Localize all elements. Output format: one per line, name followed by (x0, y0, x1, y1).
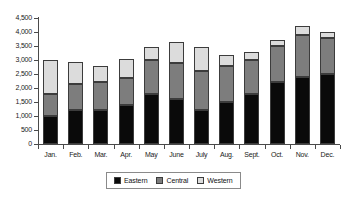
plot-area (38, 18, 338, 144)
bar-group (320, 18, 335, 144)
y-axis-tick-label: 3,500 (0, 42, 32, 49)
bar-group (68, 18, 83, 144)
y-axis-tick-label: 4,500 (0, 14, 32, 21)
bar-segment-eastern (295, 77, 310, 144)
x-axis-tick (290, 145, 291, 149)
bar-group (93, 18, 108, 144)
bar-segment-central (270, 46, 285, 82)
y-axis-tick-label: 3,000 (0, 56, 32, 63)
legend-item: Central (156, 177, 188, 185)
chart-legend: EasternCentralWestern (106, 172, 241, 189)
bar-segment-western (43, 60, 58, 94)
y-axis-label-wrap: 500 (0, 126, 32, 133)
y-axis-label-wrap: 1,500 (0, 98, 32, 105)
y-axis-label-wrap: 1,000 (0, 112, 32, 119)
x-axis-tick (114, 145, 115, 149)
bar-segment-western (270, 40, 285, 46)
bar-group (244, 18, 259, 144)
bar-segment-eastern (68, 110, 83, 144)
y-axis-tick-label: 0 (0, 140, 32, 147)
bar-segment-eastern (43, 116, 58, 144)
bar-group (295, 18, 310, 144)
bar-segment-central (194, 71, 209, 110)
x-axis-tick (164, 145, 165, 149)
bar-segment-eastern (320, 74, 335, 144)
x-axis-tick (38, 145, 39, 149)
bar-segment-eastern (144, 94, 159, 144)
y-axis-tick-label: 2,500 (0, 70, 32, 77)
bar-segment-central (43, 94, 58, 116)
bar-segment-western (295, 26, 310, 34)
bar-segment-eastern (93, 110, 108, 144)
bar-group (144, 18, 159, 144)
bar-group (219, 18, 234, 144)
legend-swatch-western (197, 177, 204, 184)
y-axis-tick-label: 1,000 (0, 112, 32, 119)
bar-segment-western (169, 42, 184, 63)
y-axis-tick-label: 4,000 (0, 28, 32, 35)
x-axis-tick (315, 145, 316, 149)
bar-group (270, 18, 285, 144)
x-axis-tick-label: Dec. (311, 151, 343, 159)
x-axis-tick (214, 145, 215, 149)
y-axis-tick-label: 500 (0, 126, 32, 133)
bar-segment-central (169, 63, 184, 99)
x-axis-tick (189, 145, 190, 149)
bar-segment-central (219, 66, 234, 102)
bar-segment-western (119, 59, 134, 78)
x-axis-tick (139, 145, 140, 149)
bar-segment-western (144, 47, 159, 60)
bar-segment-eastern (244, 94, 259, 144)
legend-item: Eastern (114, 177, 147, 185)
bar-group (169, 18, 184, 144)
legend-swatch-central (156, 177, 163, 184)
x-axis-tick (88, 145, 89, 149)
bar-segment-central (320, 38, 335, 74)
y-axis-label-wrap: 4,500 (0, 14, 32, 21)
bar-segment-western (194, 47, 209, 71)
bar-segment-eastern (219, 102, 234, 144)
bar-segment-eastern (119, 105, 134, 144)
bar-segment-eastern (194, 110, 209, 144)
legend-label: Central (166, 177, 188, 185)
stacked-bar-chart: 4,5004,0003,5003,0002,5002,0001,5001,000… (0, 0, 347, 202)
bar-segment-central (144, 60, 159, 94)
bar-segment-central (93, 82, 108, 110)
y-axis-label-wrap: 0 (0, 140, 32, 147)
bar-segment-western (219, 55, 234, 66)
bar-segment-central (119, 78, 134, 105)
bar-segment-central (68, 84, 83, 111)
y-axis-label-wrap: 4,000 (0, 28, 32, 35)
legend-label: Eastern (124, 177, 147, 185)
y-axis-label-wrap: 2,000 (0, 84, 32, 91)
bar-segment-central (295, 35, 310, 77)
bar-group (119, 18, 134, 144)
y-axis-label-wrap: 2,500 (0, 70, 32, 77)
bar-segment-eastern (169, 99, 184, 144)
bar-segment-eastern (270, 82, 285, 144)
legend-label: Western (207, 177, 232, 185)
y-axis-label-wrap: 3,000 (0, 56, 32, 63)
legend-swatch-eastern (114, 177, 121, 184)
bar-group (43, 18, 58, 144)
bar-group (194, 18, 209, 144)
y-axis-tick-label: 2,000 (0, 84, 32, 91)
x-axis-tick (340, 145, 341, 149)
bar-segment-western (320, 32, 335, 38)
x-axis-tick (239, 145, 240, 149)
bar-segment-western (93, 66, 108, 83)
x-axis-tick (265, 145, 266, 149)
legend-item: Western (197, 177, 232, 185)
bar-segment-central (244, 60, 259, 94)
y-axis-tick-label: 1,500 (0, 98, 32, 105)
bar-segment-western (68, 62, 83, 84)
bar-segment-western (244, 52, 259, 60)
y-axis-label-wrap: 3,500 (0, 42, 32, 49)
x-axis-tick (63, 145, 64, 149)
